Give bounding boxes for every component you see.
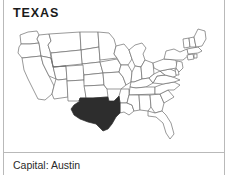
right-border-rule [224,0,225,175]
state-kansas [84,73,104,86]
state-arizona [52,79,68,99]
state-pennsylvania [153,59,177,71]
state-minnesota [98,32,117,60]
us-map-svg [8,27,222,151]
state-info-card: TEXAS [0,0,229,175]
state-alabama [139,95,151,111]
state-oklahoma [84,85,108,98]
section-divider [4,152,224,153]
left-border-rule [3,0,4,175]
state-iowa [100,59,121,73]
state-wyoming [51,50,82,67]
capital-label: Capital: Austin [13,158,80,172]
state-south-dakota [81,47,100,64]
map-states-group [18,29,206,139]
state-maine [194,29,206,47]
us-states-map [8,27,222,151]
state-oregon [18,43,41,58]
page-title: TEXAS [13,6,59,21]
state-florida [148,111,174,139]
state-massachusetts [187,47,202,54]
state-tennessee [129,87,155,95]
state-connecticut [187,54,194,60]
state-rhode-island [194,54,197,58]
state-washington [20,31,39,44]
state-montana [48,32,81,53]
state-new-york [164,49,189,60]
